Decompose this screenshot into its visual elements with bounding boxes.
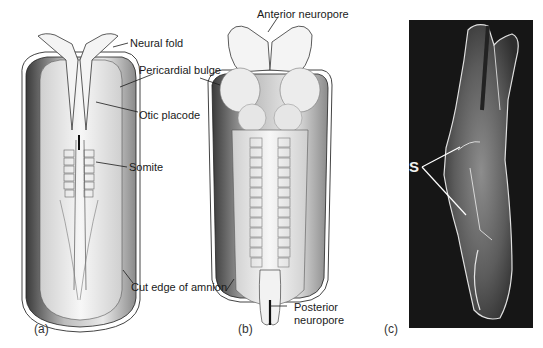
label-somites-s: S xyxy=(409,158,419,175)
label-somite: Somite xyxy=(129,161,163,174)
label-posterior-neuropore-line1: Posterior xyxy=(294,301,338,314)
label-neural-fold: Neural fold xyxy=(130,37,183,50)
embryo-figure xyxy=(0,0,543,348)
panel-a-drawing xyxy=(22,34,140,332)
label-pericardial-bulge: Pericardial bulge xyxy=(139,64,221,77)
panel-label-c: (c) xyxy=(384,322,398,336)
panel-label-b: (b) xyxy=(238,322,253,336)
label-otic-placode: Otic placode xyxy=(139,109,200,122)
panel-label-a: (a) xyxy=(34,322,49,336)
label-cut-edge-of-amnion: Cut edge of amnion xyxy=(131,281,227,294)
panel-c-micrograph xyxy=(409,20,533,328)
label-anterior-neuropore: Anterior neuropore xyxy=(257,8,349,21)
label-posterior-neuropore-line2: neuropore xyxy=(294,314,344,327)
